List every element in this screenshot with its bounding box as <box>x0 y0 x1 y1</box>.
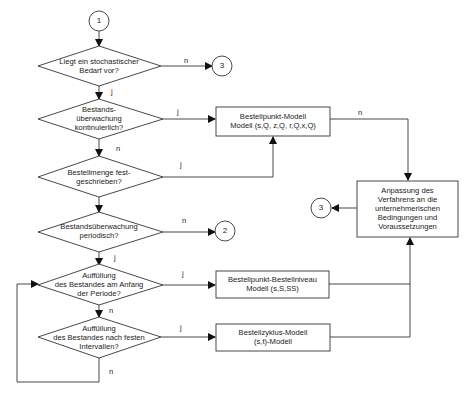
d4-yes-label: j <box>114 253 116 262</box>
process-4-line-5: Voraussetzungen <box>357 222 458 231</box>
connector-2-label: 2 <box>215 226 235 235</box>
decision-1-label: Liegt ein stochastischer Bedarf vor? <box>49 57 149 75</box>
decision-5-line-3: der Periode? <box>44 289 154 298</box>
d2-no-label: n <box>116 144 120 153</box>
decision-2-line-3: kontinuierlich? <box>49 123 149 132</box>
decision-5-line-2: des Bestandes am Anfang <box>44 280 154 289</box>
connector-1-label: 1 <box>89 16 109 25</box>
decision-6-line-3: Intervallen? <box>44 342 154 351</box>
process-1-label: Bestellpunkt-Modell Modell (s,Q, z,Q, r,… <box>216 112 330 130</box>
decision-1-line-1: Liegt ein stochastischer <box>49 57 149 66</box>
d6-no-label: n <box>109 367 113 376</box>
decision-5-label: Auffüllung des Bestandes am Anfang der P… <box>44 271 154 298</box>
decision-4-label: Bestandsüberwachung periodisch? <box>49 222 149 240</box>
process-2-line-2: Modell (s,S,SS) <box>216 284 329 293</box>
d4-no-label: n <box>182 216 186 225</box>
decision-6-line-2: des Bestandes nach festen <box>44 333 154 342</box>
decision-2-line-1: Bestands- <box>49 105 149 114</box>
process-4-label: Anpassung des Verfahrens an die unterneh… <box>357 186 458 231</box>
process-1-line-1: Bestellpunkt-Modell <box>216 112 330 121</box>
d1-yes-label: j <box>111 87 113 96</box>
decision-2-line-2: überwachung <box>49 114 149 123</box>
decision-3-label: Bestellmenge fest- geschrieben? <box>49 168 149 186</box>
process-4-line-1: Anpassung des <box>357 186 458 195</box>
process-3-line-1: Bestellzyklus-Modell <box>216 328 330 337</box>
decision-3-line-1: Bestellmenge fest- <box>49 168 149 177</box>
connector-3-right-label: 3 <box>311 203 331 212</box>
decision-5-line-1: Auffüllung <box>44 271 154 280</box>
process-2-label: Bestellpunkt-Bestellniveau Modell (s,S,S… <box>216 275 329 293</box>
d2-yes-label: j <box>177 107 179 116</box>
decision-6-line-1: Auffüllung <box>44 324 154 333</box>
d6-yes-label: j <box>180 323 182 332</box>
connector-3-top-label: 3 <box>212 61 232 70</box>
process-4-line-4: Bedingungen und <box>357 213 458 222</box>
process-1-line-2: Modell (s,Q, z,Q, r,Q,x,Q) <box>216 121 330 130</box>
d5-yes-label: j <box>182 269 184 278</box>
d3-yes-label: j <box>180 160 182 169</box>
d1-no-label: n <box>184 56 188 65</box>
decision-4-line-1: Bestandsüberwachung <box>49 222 149 231</box>
d5-no-label: n <box>109 306 113 315</box>
decision-1-line-2: Bedarf vor? <box>49 66 149 75</box>
decision-4-line-2: periodisch? <box>49 231 149 240</box>
decision-6-label: Auffüllung des Bestandes nach festen Int… <box>44 324 154 351</box>
process-4-line-2: Verfahrens an die <box>357 195 458 204</box>
process-2-line-1: Bestellpunkt-Bestellniveau <box>216 275 329 284</box>
process-3-line-2: (s,t)-Modell <box>216 337 330 346</box>
decision-2-label: Bestands- überwachung kontinuierlich? <box>49 105 149 132</box>
p1-out-label: n <box>358 108 362 117</box>
decision-3-line-2: geschrieben? <box>49 177 149 186</box>
process-3-label: Bestellzyklus-Modell (s,t)-Modell <box>216 328 330 346</box>
process-4-line-3: unternehmerischen <box>357 204 458 213</box>
